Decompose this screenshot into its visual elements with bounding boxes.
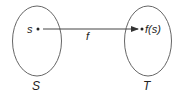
function-label: f [86, 30, 90, 42]
element-s-dot [37, 28, 40, 31]
element-fs-label: f(s) [145, 23, 161, 35]
set-s-label: S [32, 79, 40, 93]
set-t-label: T [143, 79, 152, 93]
set-s-ellipse [13, 6, 62, 76]
set-t-ellipse [125, 6, 172, 76]
element-s-label: s [27, 23, 33, 35]
element-fs-dot [141, 28, 144, 31]
function-diagram: s f(s) f S T [0, 0, 180, 96]
